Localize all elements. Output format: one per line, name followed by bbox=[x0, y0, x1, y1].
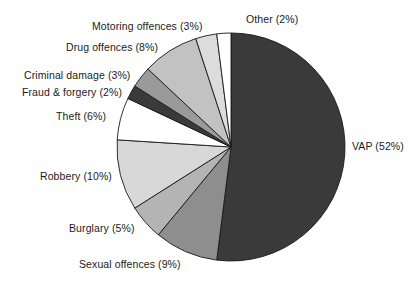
pie-label-robbery: Robbery (10%) bbox=[40, 170, 112, 182]
pie-slices bbox=[117, 33, 345, 261]
pie-chart: VAP (52%) Sexual offences (9%) Burglary … bbox=[0, 0, 420, 282]
pie-label-sexual-offences: Sexual offences (9%) bbox=[79, 258, 181, 270]
pie-slice-vap bbox=[217, 33, 345, 261]
pie-label-drug-offences: Drug offences (8%) bbox=[66, 41, 158, 53]
pie-label-motoring-offences: Motoring offences (3%) bbox=[92, 20, 203, 32]
pie-label-vap: VAP (52%) bbox=[352, 140, 404, 152]
pie-label-criminal-damage: Criminal damage (3%) bbox=[24, 69, 130, 81]
pie-label-burglary: Burglary (5%) bbox=[69, 222, 134, 234]
pie-label-theft: Theft (6%) bbox=[56, 110, 106, 122]
pie-label-fraud-forgery: Fraud & forgery (2%) bbox=[22, 86, 122, 98]
pie-label-other: Other (2%) bbox=[246, 13, 298, 25]
